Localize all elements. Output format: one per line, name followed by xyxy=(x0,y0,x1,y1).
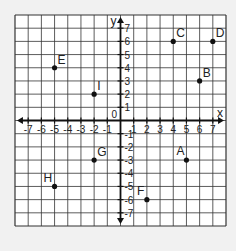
x-axis-label: x xyxy=(217,106,223,120)
x-tick-label: 6 xyxy=(197,124,203,135)
point-marker-icon xyxy=(52,65,57,70)
point-marker-icon xyxy=(92,92,97,97)
y-tick-label: -4 xyxy=(125,168,134,179)
y-tick-label: -1 xyxy=(125,129,134,140)
point-label: A xyxy=(176,144,184,158)
point-marker-icon xyxy=(171,39,176,44)
point-label: E xyxy=(58,53,66,67)
x-tick-label: 3 xyxy=(157,124,163,135)
point-marker-icon xyxy=(197,78,202,83)
point-marker-icon xyxy=(52,184,57,189)
point-label: F xyxy=(137,184,144,198)
x-tick-label: -7 xyxy=(24,124,33,135)
point-marker-icon xyxy=(144,197,149,202)
y-tick-label: 6 xyxy=(125,36,131,47)
y-tick-label: 4 xyxy=(125,63,131,74)
y-tick-label: 5 xyxy=(125,50,131,61)
x-tick-label: 4 xyxy=(170,124,176,135)
x-tick-label: 2 xyxy=(144,124,150,135)
y-tick-label: 3 xyxy=(125,76,131,87)
point-label: C xyxy=(176,26,185,40)
point-marker-icon xyxy=(184,157,189,162)
coordinate-plane: xy -7-6-5-4-3-2-112345677654321-1-2-3-4-… xyxy=(0,0,236,251)
point-label: I xyxy=(97,79,100,93)
y-axis-label: y xyxy=(111,14,117,28)
point-marker-icon xyxy=(210,39,215,44)
x-tick-label: -1 xyxy=(103,124,112,135)
x-tick-label: -2 xyxy=(90,124,99,135)
y-tick-label: 2 xyxy=(125,89,131,100)
y-tick-label: -3 xyxy=(125,155,134,166)
x-tick-label: -5 xyxy=(50,124,59,135)
point-label: G xyxy=(97,145,106,159)
y-tick-label: 7 xyxy=(125,23,131,34)
x-tick-label: 5 xyxy=(184,124,190,135)
point-marker-icon xyxy=(92,157,97,162)
y-tick-label: -5 xyxy=(125,181,134,192)
origin-label: 0 xyxy=(112,109,118,120)
x-tick-label: -4 xyxy=(63,124,72,135)
x-tick-label: -6 xyxy=(37,124,46,135)
x-tick-label: 7 xyxy=(210,124,216,135)
point-label: B xyxy=(203,66,211,80)
point-label: D xyxy=(216,26,225,40)
y-tick-label: -6 xyxy=(125,195,134,206)
x-tick-label: -3 xyxy=(76,124,85,135)
y-tick-label: 1 xyxy=(125,102,131,113)
y-tick-label: -2 xyxy=(125,142,134,153)
y-tick-label: -7 xyxy=(125,208,134,219)
point-label: H xyxy=(44,171,53,185)
